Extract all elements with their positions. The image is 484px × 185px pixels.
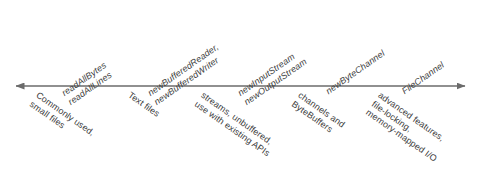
diagram-canvas: readAllBytes readAllLines newBufferedRea…: [0, 0, 484, 185]
